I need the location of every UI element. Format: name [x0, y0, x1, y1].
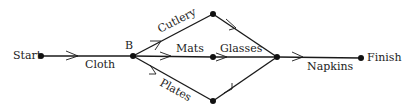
edge-label-cutlery: Cutlery: [155, 5, 199, 36]
edge-bottom-to-merge: [213, 57, 277, 101]
edge-label-mats: Mats: [176, 42, 204, 55]
node-merge: [274, 54, 280, 60]
node-bottom: [210, 98, 216, 104]
node-label-finish: Finish: [367, 51, 401, 64]
node-label-b: B: [125, 39, 133, 52]
node-finish: [358, 55, 364, 61]
node-top: [210, 11, 216, 17]
edge-label-glasses: Glasses: [220, 42, 263, 55]
node-b: [130, 53, 136, 59]
node-mid: [210, 54, 216, 60]
activity-network-diagram: Start B Finish Cloth Cutlery Mats Plates…: [0, 0, 410, 109]
edge-mats: [133, 56, 213, 57]
edge-label-napkins: Napkins: [307, 60, 353, 73]
edge-napkins: [277, 57, 361, 58]
edge-label-cloth: Cloth: [85, 58, 115, 71]
node-label-start: Start: [13, 49, 42, 62]
